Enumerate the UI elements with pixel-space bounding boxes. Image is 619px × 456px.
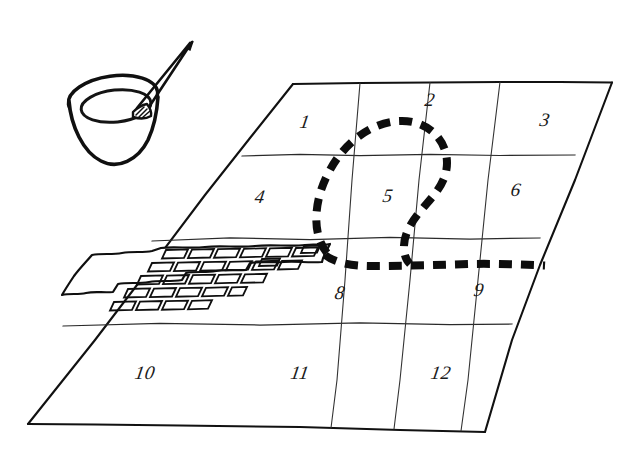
grid-row-line-3: [63, 323, 512, 326]
brick-row: [110, 300, 212, 310]
grid-cell-label-12: 12: [429, 362, 452, 384]
grid-cell-label-11: 11: [289, 362, 311, 384]
grid-column-line-1: [331, 83, 360, 428]
grid-column-line-2: [394, 83, 430, 430]
illustration-svg: [0, 0, 619, 456]
grid-column-lines: [331, 82, 500, 431]
drawing-canvas: 1 2 3 4 5 6 8 9 10 11 12: [0, 0, 619, 456]
grid-row-line-1: [242, 155, 575, 157]
dashed-bottom-run: [325, 255, 545, 266]
grid-cell-label-10: 10: [133, 362, 156, 384]
dashed-loop: [316, 121, 447, 264]
grid-column-line-3: [461, 82, 500, 431]
brick-row: [124, 287, 247, 298]
grid-row-lines: [63, 155, 575, 327]
grid-edge-bottom: [28, 424, 485, 432]
brick-paving-area: [62, 244, 330, 311]
grid-edge-right: [485, 83, 612, 433]
brush-handle: [137, 42, 192, 110]
paint-bucket-group: [65, 41, 193, 164]
grid-edge-top: [293, 82, 612, 84]
